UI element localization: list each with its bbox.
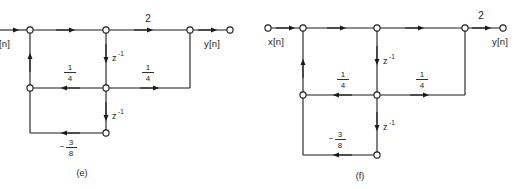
panel-e-node-mid-left [27, 85, 33, 91]
panel-e-node-top-mid [103, 27, 109, 33]
panel-e-frac-left-denominator: 4 [68, 74, 73, 83]
panel-f-frac-bottom-numerator: 3 [338, 130, 343, 139]
panel-e-frac-bottom-numerator: 3 [69, 138, 74, 147]
panel-e-delay2-z: z [112, 111, 117, 121]
panel-e-delay1-z: z [112, 53, 117, 63]
panel-f-node-mid-left [300, 92, 306, 98]
panel-f-frac-right-numerator: 1 [420, 70, 425, 79]
panel-f-node-output [500, 25, 506, 31]
panel-f-node-mid-center [374, 92, 380, 98]
panel-e-node-output [227, 27, 233, 33]
panel-f-frac-left-numerator: 1 [341, 70, 346, 79]
panel-e-output-label: y[n] [204, 38, 220, 49]
panel-f-output-label: y[n] [492, 36, 508, 47]
panel-e-node-mid-center [103, 85, 109, 91]
panel-e-delay2-exponent: -1 [118, 108, 124, 115]
panel-f-node-bottom [374, 152, 380, 158]
panel-e-caption: (e) [77, 168, 88, 178]
panel-e-node-bottom [103, 130, 109, 136]
panel-e-node-input-sum [27, 27, 33, 33]
panel-f-frac-bottom-denominator: 8 [338, 141, 343, 150]
panel-f-frac-right-denominator: 4 [420, 81, 425, 90]
panel-e-node-top-right [187, 27, 193, 33]
panel-f-node-top-right [462, 25, 468, 31]
figure-canvas: [n] y[n] 2 z -1 z -1 1 4 1 4 − 3 [0, 0, 517, 189]
panel-f-delay2-exponent: -1 [389, 119, 395, 126]
panel-e-frac-right-numerator: 1 [146, 63, 151, 72]
panel-e-delay1-exponent: -1 [118, 50, 124, 57]
panel-f-node-top-mid [374, 25, 380, 31]
panel-e-gain-output-label: 2 [145, 13, 151, 24]
panel-e-frac-left-numerator: 1 [68, 63, 73, 72]
panel-f-caption: (f) [356, 171, 365, 181]
signal-flow-graph-figure: [n] y[n] 2 z -1 z -1 1 4 1 4 − 3 [0, 0, 517, 189]
panel-f-input-label: x[n] [268, 36, 284, 47]
panel-e-frac-right-denominator: 4 [146, 74, 151, 83]
panel-f-frac-left-denominator: 4 [341, 81, 346, 90]
panel-f-delay1-z: z [383, 56, 388, 66]
panel-f-delay2-z: z [383, 122, 388, 132]
panel-e-frac-bottom-sign: − [60, 142, 65, 151]
panel-f-frac-bottom-sign: − [329, 134, 334, 143]
panel-f-node-input-sum [300, 25, 306, 31]
panel-f-delay1-exponent: -1 [389, 53, 395, 60]
panel-e-frac-bottom-denominator: 8 [69, 149, 74, 158]
panel-f-gain-output-label: 2 [478, 10, 484, 21]
panel-f-node-input [265, 25, 271, 31]
panel-e-input-label: [n] [0, 38, 10, 49]
